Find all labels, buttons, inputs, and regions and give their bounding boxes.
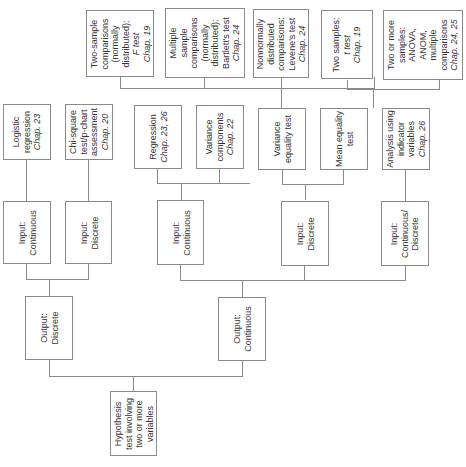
box-text: (normally [200, 17, 211, 69]
input-box-continuous-2: Input: Continuous [157, 200, 204, 265]
box-text: variables [144, 397, 155, 449]
input-box-continuous-discrete: Input: Continuous/ Discrete [381, 201, 429, 266]
test-box-f-test: Two-sample comparisons (normally distrib… [86, 10, 154, 77]
box-text: variables [406, 110, 417, 168]
connector [305, 184, 306, 200]
box-text: test/p-chart [79, 108, 90, 156]
connector [405, 170, 406, 201]
box-text: sample [179, 17, 190, 69]
box-text: Continuous/ [400, 209, 411, 257]
box-text: Two or more [386, 19, 397, 71]
box-text: Output: [232, 306, 243, 352]
connector [374, 77, 375, 89]
method-box-mean-equality: Mean equality test [320, 108, 368, 170]
box-text: Logistic [11, 111, 22, 153]
connector [347, 89, 440, 90]
box-text: Input: [170, 210, 181, 256]
connector [157, 168, 158, 183]
connector [181, 183, 182, 200]
test-box-levenes-test: Nonnormally distributed comparisons: Lev… [253, 9, 309, 78]
box-text: Output: [39, 311, 50, 344]
connector [120, 88, 375, 89]
box-text: equality test [282, 115, 293, 163]
chapter-ref: Chap. 19 [141, 18, 152, 69]
box-text: Discrete [49, 311, 60, 344]
connector [343, 170, 344, 185]
connector [49, 376, 243, 377]
decision-tree-diagram: Two-sample comparisons (normally distrib… [0, 0, 466, 467]
box-text: regression [22, 111, 33, 153]
input-box-discrete-1: Input: Discrete [65, 201, 112, 264]
test-box-bartletts-test: Multiple sample comparisons (normally di… [165, 8, 245, 78]
method-box-variance-components: Variance components Chap. 22 [196, 105, 244, 169]
box-text: comparisons: [276, 17, 287, 71]
box-text: Levene's test [286, 17, 297, 71]
box-text: indicator [396, 110, 407, 168]
box-text: Discrete [305, 217, 316, 250]
box-text: components [215, 112, 226, 161]
connector [88, 263, 89, 280]
connector [281, 88, 282, 108]
connector [304, 264, 305, 281]
box-text: Continuous [242, 306, 253, 352]
box-text: distributed [265, 17, 276, 71]
connector [26, 160, 27, 201]
box-text: Hypothesis [113, 397, 124, 449]
box-text: comparisons [439, 19, 450, 71]
box-text: (normally [110, 18, 121, 69]
box-text: two or more [134, 397, 145, 449]
connector [88, 160, 89, 201]
box-text: Discrete [89, 216, 100, 249]
box-text: Input: [17, 210, 28, 256]
connector [26, 263, 27, 280]
chapter-ref: Chap. 23 [32, 111, 43, 153]
box-text: Mean equality [334, 111, 345, 167]
box-text: Discrete [410, 209, 421, 257]
box-text: Analysis using [385, 110, 396, 168]
box-text: Input: [389, 209, 400, 257]
connector [157, 183, 250, 184]
box-text: Multiple [168, 17, 179, 69]
box-text: distributed): [120, 18, 131, 69]
chapter-ref: Chap. 22 [225, 112, 236, 161]
connector [373, 89, 374, 108]
test-box-anova: Two or more samples: ANOVA, ANOM, multip… [383, 10, 463, 80]
box-text: F test [131, 18, 142, 69]
box-text: distributed): [210, 17, 221, 69]
box-text: Two samples: [331, 17, 342, 72]
connector [439, 79, 440, 90]
connector [242, 360, 243, 377]
output-box-discrete: Output: Discrete [25, 296, 73, 360]
method-box-chi-square: Chi-square test/p-chart assessment Chap.… [65, 104, 113, 160]
box-text: Nonnormally [255, 17, 266, 71]
connector [26, 279, 89, 280]
chapter-ref: Chap. 26 [417, 110, 428, 168]
box-text: Continuous [181, 210, 192, 256]
box-text: samples: [397, 19, 408, 71]
box-text: test [344, 111, 355, 167]
connector [219, 168, 220, 184]
chapter-ref: Chap. 20 [100, 108, 111, 156]
connector [204, 77, 205, 89]
box-text: Variance [272, 115, 283, 163]
box-text: Variance [204, 112, 215, 161]
box-text: Bartlett's test [221, 17, 232, 69]
chapter-ref: Chap. 24, 25 [449, 19, 460, 71]
root-box-hypothesis-test: Hypothesis test involving two or more va… [110, 391, 157, 456]
chapter-ref: Chap. 24 [297, 17, 308, 71]
output-box-continuous: Output: Continuous [218, 297, 266, 361]
box-text: Chi-square [68, 108, 79, 156]
connector [49, 359, 50, 376]
connector [282, 170, 283, 185]
method-box-variance-equality: Variance equality test [258, 108, 306, 170]
box-text: Regression [148, 111, 159, 163]
connector [180, 280, 406, 281]
box-text: Continuous [27, 210, 38, 256]
connector [405, 265, 406, 281]
box-text: test involving [123, 397, 134, 449]
input-box-discrete-2: Input: Discrete [281, 201, 329, 266]
box-text: comparisons [189, 17, 200, 69]
box-text: assessment [89, 108, 100, 156]
box-text: Input: [78, 216, 89, 249]
connector [49, 279, 50, 296]
